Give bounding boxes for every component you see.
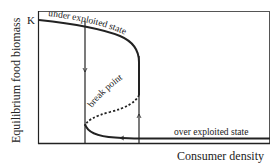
y-axis-label: Equilibrium food biomass [9, 17, 23, 143]
break-point-label: break point [86, 72, 125, 109]
hysteresis-diagram: K under exploited state break point over… [0, 0, 275, 168]
x-axis-label: Consumer density [177, 149, 264, 163]
lower-branch-label: over exploited state [174, 127, 248, 137]
k-label: K [27, 14, 35, 26]
plot-frame [39, 12, 270, 144]
